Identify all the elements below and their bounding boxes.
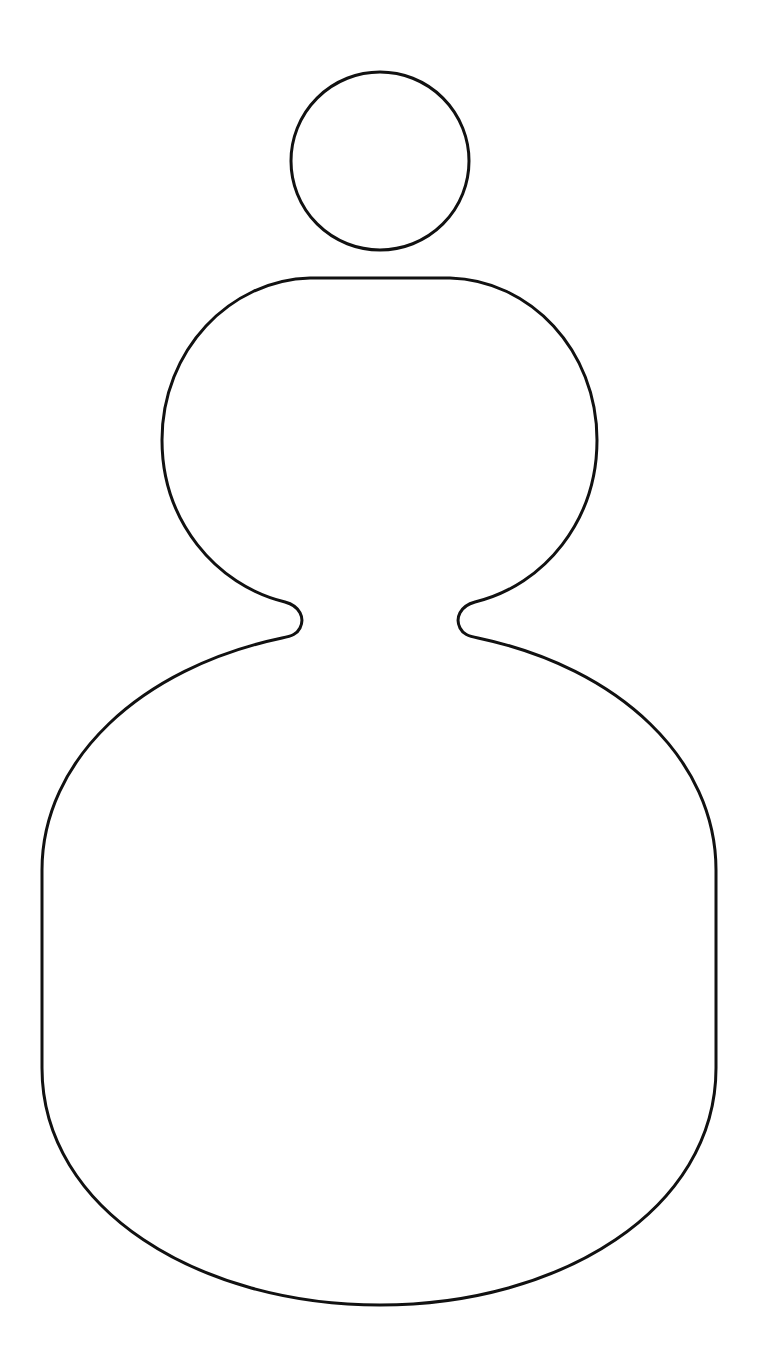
outline-figure [0, 0, 760, 1358]
drawing-canvas [0, 0, 760, 1358]
body-outline [42, 278, 716, 1305]
head-circle [291, 72, 469, 250]
